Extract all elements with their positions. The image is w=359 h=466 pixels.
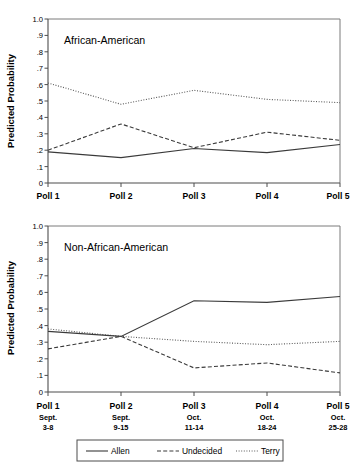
series-line-terry-top: [48, 83, 340, 104]
series-line-allen-top: [48, 144, 340, 157]
x-tick-group-poll-1: Poll 1 Sept. 3-8: [37, 401, 60, 432]
x-tick-label-poll-5: Poll 5: [327, 401, 350, 411]
chart-panel-african-american: Predicted Probability 1.0 .9 .8 .7 .6 .5…: [0, 0, 359, 215]
y-axis-ticks-bottom: 1.0 .9 .8 .7 .6 .5 .4 .3 .2 .1 0: [32, 222, 48, 397]
y-axis-ticks-top: 1.0 .9 .8 .7 .6 .5 .4 .3 .2 .1 0: [32, 15, 48, 188]
x-tick-label-poll-5: Poll 5: [327, 191, 350, 201]
y-tick-label: 0: [39, 179, 43, 188]
x-tick-label-poll-4: Poll 4: [256, 401, 279, 411]
series-line-terry-bottom: [48, 329, 340, 345]
figure-predicted-probability: Predicted Probability 1.0 .9 .8 .7 .6 .5…: [0, 0, 359, 466]
x-tick-month-poll-5: Oct.: [331, 413, 345, 422]
x-tick-label-poll-2: Poll 2: [110, 401, 133, 411]
y-tick-label: 1.0: [32, 15, 43, 24]
y-tick-label: .2: [37, 146, 43, 155]
y-tick-label: .8: [37, 48, 43, 57]
y-tick-label: 1.0: [32, 222, 43, 231]
y-tick-label: .8: [37, 255, 43, 264]
y-tick-label: .7: [37, 64, 43, 73]
x-tick-days-poll-5: 25-28: [329, 423, 348, 432]
x-tick-group-poll-3: Poll 3 Oct. 11-14: [183, 401, 206, 432]
y-tick-label: .5: [37, 97, 43, 106]
y-axis-title-top: Predicted Probability: [5, 53, 16, 148]
y-tick-label: .6: [37, 81, 43, 90]
x-tick-month-poll-1: Sept.: [39, 413, 57, 422]
y-tick-label: .6: [37, 288, 43, 297]
y-tick-label: .5: [37, 305, 43, 314]
y-tick-label: .9: [37, 239, 43, 248]
x-tick-label-poll-2: Poll 2: [110, 191, 133, 201]
panel-title-african-american: African-American: [64, 34, 145, 46]
y-tick-label: .7: [37, 272, 43, 281]
series-line-allen-bottom: [48, 297, 340, 337]
x-tick-days-poll-2: 9-15: [114, 423, 129, 432]
y-axis-title-bottom: Predicted Probability: [5, 260, 16, 355]
chart-svg-non-african-american: Predicted Probability 1.0 .9 .8 .7 .6 .5…: [0, 212, 359, 466]
y-tick-label: .3: [37, 130, 43, 139]
x-tick-month-poll-2: Sept.: [112, 413, 130, 422]
x-tick-label-poll-1: Poll 1: [37, 401, 60, 411]
legend-label-terry: Terry: [261, 446, 280, 456]
legend-label-undecided: Undecided: [182, 446, 222, 456]
y-tick-label: .3: [37, 338, 43, 347]
y-tick-label: .1: [37, 163, 43, 172]
x-tick-label-poll-3: Poll 3: [183, 401, 206, 411]
x-tick-days-poll-3: 11-14: [185, 423, 204, 432]
series-line-undecided-top: [48, 124, 340, 150]
x-tick-group-poll-2: Poll 2 Sept. 9-15: [110, 401, 133, 432]
y-tick-label: 0: [39, 388, 43, 397]
y-tick-label: .4: [37, 113, 43, 122]
x-tick-days-poll-1: 3-8: [43, 423, 54, 432]
x-tick-month-poll-3: Oct.: [187, 413, 201, 422]
panel-title-non-african-american: Non-African-American: [64, 241, 168, 253]
chart-svg-african-american: Predicted Probability 1.0 .9 .8 .7 .6 .5…: [0, 0, 359, 215]
y-tick-label: .1: [37, 371, 43, 380]
y-tick-label: .4: [37, 322, 43, 331]
y-tick-label: .9: [37, 31, 43, 40]
x-tick-label-poll-4: Poll 4: [256, 191, 279, 201]
x-tick-days-poll-4: 18-24: [258, 423, 278, 432]
x-axis-ticks-bottom: [48, 392, 340, 396]
chart-panel-non-african-american: Predicted Probability 1.0 .9 .8 .7 .6 .5…: [0, 212, 359, 466]
x-tick-month-poll-4: Oct.: [260, 413, 274, 422]
y-tick-label: .2: [37, 355, 43, 364]
chart-legend: Allen Undecided Terry: [77, 440, 283, 461]
x-tick-group-poll-4: Poll 4 Oct. 18-24: [256, 401, 279, 432]
x-axis-ticks-top: [48, 183, 340, 187]
x-tick-label-poll-1: Poll 1: [37, 191, 60, 201]
x-tick-label-poll-3: Poll 3: [183, 191, 206, 201]
legend-label-allen: Allen: [111, 446, 130, 456]
x-tick-group-poll-5: Poll 5 Oct. 25-28: [327, 401, 350, 432]
